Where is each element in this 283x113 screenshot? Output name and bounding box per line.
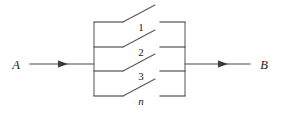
- branch-n-label: n: [138, 95, 144, 107]
- input-arrowhead: [58, 61, 68, 68]
- output-arrowhead: [218, 61, 228, 68]
- switch-branch-1[interactable]: 1: [94, 5, 185, 33]
- output-terminal-group: B: [185, 58, 268, 72]
- switch-network-diagram: A B 1 2: [0, 0, 283, 113]
- branch-2-label: 2: [138, 46, 144, 58]
- diagram-canvas: A B 1 2: [0, 0, 283, 113]
- switch-branch-3[interactable]: 3: [94, 54, 185, 82]
- branch-1-label: 1: [138, 21, 144, 33]
- switch-branch-n[interactable]: n: [94, 79, 185, 107]
- terminal-label-a: A: [11, 58, 20, 72]
- branch-1-switch-blade[interactable]: [123, 5, 155, 22]
- bus-group: [94, 22, 185, 96]
- branch-3-label: 3: [138, 70, 144, 82]
- terminal-label-b: B: [260, 58, 268, 72]
- switch-branch-2[interactable]: 2: [94, 30, 185, 58]
- input-terminal-group: A: [11, 58, 94, 72]
